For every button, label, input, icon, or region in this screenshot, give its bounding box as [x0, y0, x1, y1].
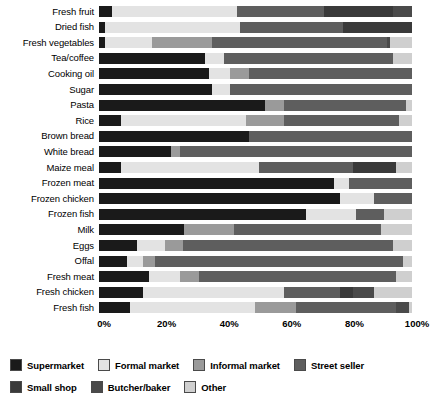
bar-segment: [396, 162, 412, 173]
bar-segment: [99, 146, 171, 157]
bar-segment: [99, 193, 340, 204]
bar-segment: [393, 6, 412, 17]
bar-segment: [209, 68, 231, 79]
bar-segment: [374, 287, 412, 298]
bar-segment: [356, 209, 384, 220]
x-tick-label: 40%: [220, 318, 239, 330]
stacked-bar: [99, 162, 412, 173]
bar-segment: [199, 271, 396, 282]
stacked-bar: [99, 240, 412, 251]
bar-segment: [121, 115, 246, 126]
legend-item[interactable]: Formal market: [98, 359, 179, 371]
legend-label: Street seller: [311, 360, 364, 371]
bar-segment: [155, 256, 402, 267]
bar-segment: [205, 53, 224, 64]
bar-segment: [324, 6, 393, 17]
bar-segment: [127, 256, 143, 267]
stacked-bar: [99, 302, 412, 313]
bar-row: Dried fish: [0, 20, 442, 35]
stacked-bar: [99, 146, 412, 157]
bar-segment: [149, 271, 180, 282]
bar-segment: [99, 287, 143, 298]
bar-segment: [99, 53, 205, 64]
bar-row: Fresh fish: [0, 300, 442, 315]
stacked-bar: [99, 224, 412, 235]
bar-segment: [137, 240, 165, 251]
stacked-bar: [99, 115, 412, 126]
bar-segment: [121, 162, 259, 173]
legend-item[interactable]: Other: [184, 381, 226, 393]
bar-segment: [343, 22, 412, 33]
legend-item[interactable]: Butcher/baker: [91, 381, 171, 393]
bar-segment: [340, 193, 374, 204]
bar-segment: [99, 68, 209, 79]
stacked-bar: [99, 209, 412, 220]
bar-row: Tea/coffee: [0, 51, 442, 66]
stacked-bar: [99, 271, 412, 282]
legend-swatch-icon: [193, 359, 205, 371]
legend-swatch-icon: [98, 359, 110, 371]
bar-segment: [340, 287, 353, 298]
x-tick-label: 0%: [97, 318, 111, 330]
bar-row: Fresh chicken: [0, 285, 442, 300]
bar-row: White bread: [0, 144, 442, 159]
category-label: Frozen chicken: [0, 194, 99, 204]
legend-row-1: SupermarketFormal marketInformal marketS…: [10, 354, 434, 376]
bar-segment: [399, 115, 412, 126]
legend-item[interactable]: Supermarket: [10, 359, 84, 371]
bar-segment: [396, 302, 409, 313]
stacked-bar-chart: Fresh fruitDried fishFresh vegetablesTea…: [0, 0, 442, 412]
bar-row: Rice: [0, 113, 442, 128]
bar-segment: [180, 271, 199, 282]
bar-segment: [99, 224, 184, 235]
plot-area: Fresh fruitDried fishFresh vegetablesTea…: [0, 0, 442, 340]
bar-segment: [381, 224, 412, 235]
bar-segment: [240, 22, 343, 33]
legend-item[interactable]: Informal market: [193, 359, 280, 371]
category-label: Fresh fish: [0, 303, 99, 313]
legend-label: Other: [201, 382, 226, 393]
bar-segment: [353, 287, 375, 298]
bar-row: Sugar: [0, 82, 442, 97]
bar-segment: [99, 302, 130, 313]
bar-segment: [212, 84, 231, 95]
x-tick-label: 100%: [405, 318, 429, 330]
category-label: Tea/coffee: [0, 53, 99, 63]
bar-segment: [259, 162, 353, 173]
legend-swatch-icon: [10, 359, 22, 371]
legend-item[interactable]: Street seller: [294, 359, 364, 371]
x-tick-label: 60%: [282, 318, 301, 330]
bar-segment: [234, 224, 381, 235]
stacked-bar: [99, 178, 412, 189]
bar-segment: [143, 287, 284, 298]
stacked-bar: [99, 22, 412, 33]
stacked-bar: [99, 37, 412, 48]
stacked-bar: [99, 84, 412, 95]
category-label: Rice: [0, 116, 99, 126]
bar-segment: [99, 178, 334, 189]
bar-segment: [249, 131, 412, 142]
bar-row: Frozen meat: [0, 176, 442, 191]
bar-segment: [284, 100, 406, 111]
bar-row: Pasta: [0, 98, 442, 113]
bar-segment: [396, 271, 412, 282]
category-label: Pasta: [0, 100, 99, 110]
legend-label: Supermarket: [27, 360, 84, 371]
bar-segment: [230, 68, 249, 79]
bar-segment: [349, 178, 412, 189]
legend-label: Informal market: [210, 360, 280, 371]
category-label: Sugar: [0, 85, 99, 95]
bar-segment: [212, 37, 387, 48]
bar-segment: [99, 162, 121, 173]
bar-segment: [112, 6, 237, 17]
x-tick-label: 20%: [157, 318, 176, 330]
stacked-bar: [99, 131, 412, 142]
bar-segment: [384, 209, 412, 220]
legend-item[interactable]: Small shop: [10, 381, 77, 393]
bar-segment: [180, 146, 412, 157]
category-label: Fresh vegetables: [0, 38, 99, 48]
bar-segment: [99, 256, 127, 267]
bar-segment: [230, 84, 412, 95]
legend-label: Formal market: [115, 360, 179, 371]
legend-label: Butcher/baker: [108, 382, 171, 393]
